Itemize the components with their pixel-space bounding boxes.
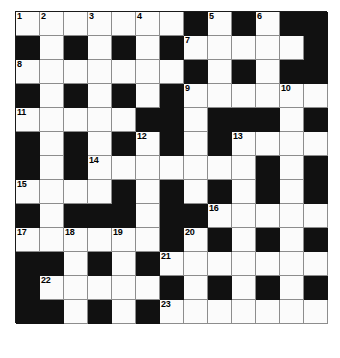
crossword-cell-open[interactable]	[304, 84, 328, 108]
crossword-cell-open[interactable]: 11	[16, 108, 40, 132]
crossword-cell-open[interactable]	[280, 132, 304, 156]
crossword-cell-open[interactable]: 21	[160, 252, 184, 276]
crossword-cell-open[interactable]: 1	[16, 12, 40, 36]
crossword-cell-open[interactable]: 9	[184, 84, 208, 108]
crossword-cell-open[interactable]: 2	[40, 12, 64, 36]
crossword-cell-open[interactable]	[136, 228, 160, 252]
crossword-cell-open[interactable]	[112, 108, 136, 132]
crossword-cell-open[interactable]	[280, 204, 304, 228]
crossword-cell-open[interactable]	[232, 228, 256, 252]
crossword-cell-open[interactable]	[208, 84, 232, 108]
crossword-cell-open[interactable]	[112, 276, 136, 300]
crossword-cell-open[interactable]	[280, 276, 304, 300]
crossword-cell-open[interactable]: 18	[64, 228, 88, 252]
crossword-cell-open[interactable]	[160, 12, 184, 36]
crossword-cell-open[interactable]	[256, 84, 280, 108]
crossword-cell-open[interactable]	[232, 36, 256, 60]
crossword-cell-open[interactable]	[184, 300, 208, 324]
crossword-cell-open[interactable]	[40, 204, 64, 228]
crossword-cell-open[interactable]: 17	[16, 228, 40, 252]
crossword-cell-open[interactable]	[64, 276, 88, 300]
crossword-cell-open[interactable]	[184, 132, 208, 156]
crossword-cell-open[interactable]	[88, 108, 112, 132]
crossword-cell-open[interactable]	[88, 228, 112, 252]
crossword-cell-open[interactable]: 20	[184, 228, 208, 252]
crossword-cell-open[interactable]	[280, 180, 304, 204]
crossword-cell-open[interactable]	[136, 204, 160, 228]
crossword-cell-open[interactable]	[256, 204, 280, 228]
crossword-cell-open[interactable]	[88, 60, 112, 84]
crossword-cell-open[interactable]: 7	[184, 36, 208, 60]
crossword-cell-open[interactable]	[232, 276, 256, 300]
crossword-cell-open[interactable]: 23	[160, 300, 184, 324]
crossword-cell-open[interactable]	[136, 180, 160, 204]
crossword-cell-open[interactable]	[184, 156, 208, 180]
crossword-cell-open[interactable]	[112, 60, 136, 84]
crossword-cell-open[interactable]: 15	[16, 180, 40, 204]
crossword-cell-open[interactable]	[256, 300, 280, 324]
crossword-cell-open[interactable]	[304, 132, 328, 156]
crossword-cell-open[interactable]	[136, 84, 160, 108]
crossword-cell-open[interactable]	[280, 156, 304, 180]
crossword-cell-open[interactable]	[136, 60, 160, 84]
crossword-cell-open[interactable]	[256, 252, 280, 276]
crossword-cell-open[interactable]: 12	[136, 132, 160, 156]
crossword-cell-open[interactable]	[256, 60, 280, 84]
crossword-cell-open[interactable]	[160, 156, 184, 180]
crossword-cell-open[interactable]	[40, 108, 64, 132]
crossword-cell-open[interactable]	[64, 12, 88, 36]
crossword-cell-open[interactable]	[40, 156, 64, 180]
crossword-cell-open[interactable]	[184, 180, 208, 204]
crossword-cell-open[interactable]	[232, 252, 256, 276]
crossword-cell-open[interactable]	[280, 252, 304, 276]
crossword-cell-open[interactable]	[280, 108, 304, 132]
crossword-cell-open[interactable]	[40, 84, 64, 108]
crossword-cell-open[interactable]: 16	[208, 204, 232, 228]
crossword-cell-open[interactable]	[208, 156, 232, 180]
crossword-cell-open[interactable]: 14	[88, 156, 112, 180]
crossword-cell-open[interactable]	[136, 276, 160, 300]
crossword-cell-open[interactable]	[280, 36, 304, 60]
crossword-cell-open[interactable]	[184, 108, 208, 132]
crossword-cell-open[interactable]	[208, 300, 232, 324]
crossword-cell-open[interactable]: 5	[208, 12, 232, 36]
crossword-cell-open[interactable]	[184, 252, 208, 276]
crossword-cell-open[interactable]	[40, 180, 64, 204]
crossword-cell-open[interactable]	[136, 36, 160, 60]
crossword-cell-open[interactable]	[64, 252, 88, 276]
crossword-cell-open[interactable]	[256, 36, 280, 60]
crossword-cell-open[interactable]	[304, 252, 328, 276]
crossword-cell-open[interactable]	[232, 180, 256, 204]
crossword-cell-open[interactable]	[40, 60, 64, 84]
crossword-cell-open[interactable]: 10	[280, 84, 304, 108]
crossword-cell-open[interactable]	[88, 276, 112, 300]
crossword-cell-open[interactable]	[304, 300, 328, 324]
crossword-cell-open[interactable]	[184, 276, 208, 300]
crossword-cell-open[interactable]	[304, 204, 328, 228]
crossword-cell-open[interactable]	[40, 132, 64, 156]
crossword-cell-open[interactable]	[280, 228, 304, 252]
crossword-grid[interactable]: 1234567891011121314151617181920212223	[15, 11, 327, 323]
crossword-cell-open[interactable]	[112, 12, 136, 36]
crossword-cell-open[interactable]: 3	[88, 12, 112, 36]
crossword-cell-open[interactable]	[88, 36, 112, 60]
crossword-cell-open[interactable]	[160, 60, 184, 84]
crossword-cell-open[interactable]: 22	[40, 276, 64, 300]
crossword-cell-open[interactable]	[256, 132, 280, 156]
crossword-cell-open[interactable]: 13	[232, 132, 256, 156]
crossword-cell-open[interactable]	[112, 300, 136, 324]
crossword-cell-open[interactable]	[64, 60, 88, 84]
crossword-cell-open[interactable]	[40, 36, 64, 60]
crossword-cell-open[interactable]	[232, 204, 256, 228]
crossword-cell-open[interactable]	[64, 108, 88, 132]
crossword-cell-open[interactable]	[232, 300, 256, 324]
crossword-cell-open[interactable]	[208, 36, 232, 60]
crossword-cell-open[interactable]	[40, 228, 64, 252]
crossword-cell-open[interactable]: 4	[136, 12, 160, 36]
crossword-cell-open[interactable]	[208, 252, 232, 276]
crossword-cell-open[interactable]	[208, 60, 232, 84]
crossword-cell-open[interactable]	[112, 156, 136, 180]
crossword-cell-open[interactable]	[232, 156, 256, 180]
crossword-cell-open[interactable]	[112, 252, 136, 276]
crossword-cell-open[interactable]: 8	[16, 60, 40, 84]
